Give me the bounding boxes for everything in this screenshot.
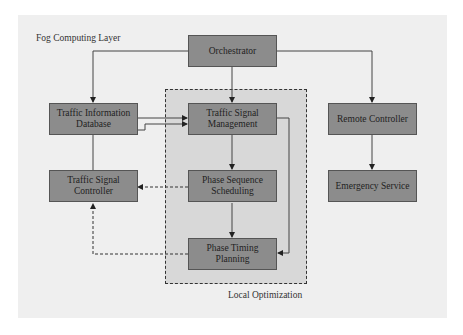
node-emergency-service: Emergency Service [328,170,417,202]
node-remote-controller: Remote Controller [328,103,417,135]
node-traffic-information-database: Traffic Information Database [49,103,138,135]
node-traffic-signal-controller: Traffic Signal Controller [49,170,138,202]
edge-orchestrator-to-remote [277,51,372,102]
node-traffic-signal-management: Traffic Signal Management [188,103,277,135]
edge-tsm-to-ptp [277,118,289,253]
node-phase-sequence-scheduling: Phase Sequence Scheduling [188,170,277,202]
edge-ptp-to-tsc [93,204,188,254]
node-orchestrator: Orchestrator [188,35,277,67]
edge-orchestrator-to-db [93,51,188,102]
node-phase-timing-planning: Phase Timing Planning [188,238,277,270]
